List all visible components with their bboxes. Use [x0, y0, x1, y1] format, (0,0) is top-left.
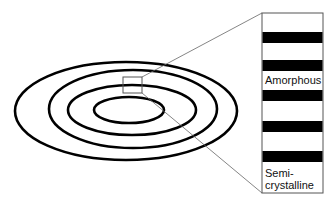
semicrystalline-label: Semi- crystalline — [265, 167, 314, 191]
crystalline-band-4 — [263, 121, 323, 132]
crystalline-band-3 — [263, 90, 323, 101]
crystalline-band-1 — [263, 32, 323, 43]
callout-line-bottom — [142, 93, 262, 193]
ring-4 — [94, 97, 164, 123]
semicrystalline-label-line2: crystalline — [265, 179, 314, 191]
amorphous-label: Amorphous — [265, 74, 321, 86]
ring-2 — [49, 70, 217, 148]
callout-line-top — [142, 13, 262, 77]
semicrystalline-label-line1: Semi- — [265, 167, 314, 179]
crystalline-band-2 — [263, 60, 323, 71]
crystalline-band-5 — [263, 151, 323, 162]
